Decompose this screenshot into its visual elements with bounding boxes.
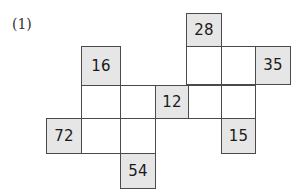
cell-value: 35	[263, 58, 283, 73]
cell-r2c2[interactable]: 16	[81, 46, 121, 86]
cell-value: 54	[128, 163, 148, 178]
cell-value: 15	[229, 128, 249, 143]
cell-r4c6[interactable]: 15	[221, 118, 256, 154]
cell-value: 72	[54, 128, 74, 143]
cell-r3c5[interactable]	[188, 85, 222, 119]
cell-r3c3[interactable]	[120, 85, 156, 119]
cell-r5c3[interactable]: 54	[120, 153, 156, 189]
cell-r4c2[interactable]	[81, 118, 121, 154]
cell-value: 28	[194, 22, 214, 37]
cell-r1c5[interactable]: 28	[186, 13, 222, 47]
cell-r4c3[interactable]	[120, 118, 156, 154]
worksheet-figure: (1) 28163512721554	[0, 0, 301, 189]
cell-r3c4[interactable]: 12	[155, 85, 189, 119]
cell-r2c5[interactable]	[186, 46, 222, 85]
cell-r4c1[interactable]: 72	[46, 118, 82, 154]
cell-r2c6[interactable]	[221, 46, 256, 85]
cell-value: 12	[162, 94, 182, 109]
cell-r3c2[interactable]	[81, 85, 121, 119]
cell-r3c6[interactable]	[221, 85, 256, 119]
cell-r2c7[interactable]: 35	[255, 46, 291, 85]
number-grid: 28163512721554	[0, 0, 301, 189]
cell-value: 16	[91, 58, 111, 73]
